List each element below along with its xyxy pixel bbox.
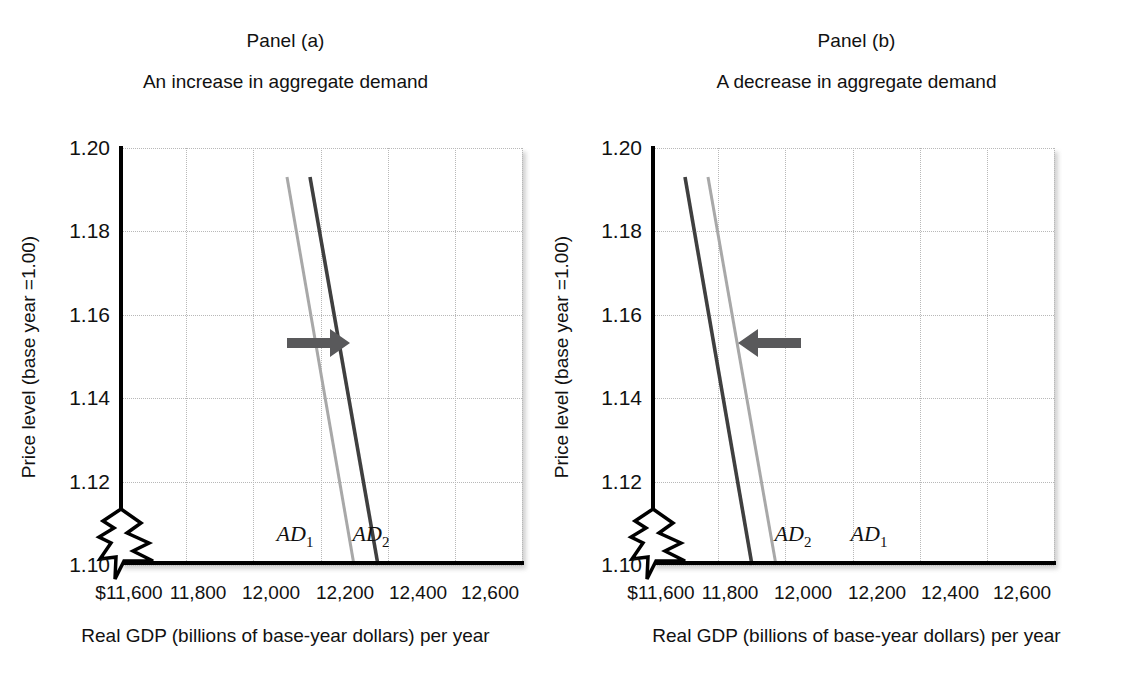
panel-a-curves — [119, 148, 522, 565]
panel-b-title: Panel (b) — [571, 30, 1142, 52]
panel-a-x-axis-label: Real GDP (billions of base-year dollars)… — [0, 625, 571, 647]
panel-b-curves — [651, 148, 1054, 565]
panel-b-y-axis-label-text: Price level (base year =1.00) — [551, 235, 573, 477]
panel-b-plot-area: AD2 AD1 1.20 1.18 1.16 1.14 1.12 1.10 $1… — [651, 148, 1054, 565]
x-tick-label: 12,000 — [774, 582, 832, 604]
y-tick-label: 1.12 — [601, 469, 642, 493]
gridline-v — [1054, 148, 1055, 565]
x-tick-label: 12,200 — [848, 582, 906, 604]
x-tick-label: 12,200 — [316, 582, 374, 604]
panel-b-y-axis-label: Price level (base year =1.00) — [549, 148, 575, 565]
x-tick-label: 12,600 — [993, 582, 1051, 604]
y-tick-label: 1.14 — [601, 386, 642, 410]
y-tick-label: 1.18 — [69, 219, 110, 243]
curve-label-ad2: AD2 — [353, 521, 390, 550]
x-tick-label: 12,400 — [389, 582, 447, 604]
panel-a-x-axis — [119, 561, 524, 565]
panel-b-subtitle: A decrease in aggregate demand — [571, 70, 1142, 93]
gridline-v — [522, 148, 523, 565]
panel-a-plot: AD1 AD2 1.20 1.18 1.16 1.14 1.12 1.10 $1… — [119, 148, 522, 565]
y-tick-label: 1.10 — [69, 553, 110, 577]
curve-label-ad1: AD1 — [851, 521, 888, 550]
y-tick-label: 1.18 — [601, 219, 642, 243]
gridline-h — [119, 565, 522, 566]
panel-b-x-axis — [651, 561, 1056, 565]
y-tick-label: 1.10 — [601, 553, 642, 577]
gridline-h — [651, 565, 1054, 566]
y-tick-label: 1.20 — [69, 136, 110, 160]
x-tick-label: 12,600 — [461, 582, 519, 604]
x-tick-label: 12,000 — [242, 582, 300, 604]
y-tick-label: 1.20 — [601, 136, 642, 160]
x-tick-label: 12,400 — [921, 582, 979, 604]
x-tick-label: 11,800 — [170, 582, 227, 604]
curve-label-ad2: AD2 — [775, 521, 812, 550]
left-arrow-icon — [738, 329, 801, 357]
panel-a-subtitle: An increase in aggregate demand — [0, 70, 571, 93]
y-tick-label: 1.16 — [601, 302, 642, 326]
x-tick-label: $11,600 — [627, 582, 694, 604]
y-tick-label: 1.12 — [69, 469, 110, 493]
panel-a-y-axis-label-text: Price level (base year =1.00) — [18, 235, 40, 477]
panel-a-y-axis-label: Price level (base year =1.00) — [16, 148, 42, 565]
panel-b-plot: AD2 AD1 1.20 1.18 1.16 1.14 1.12 1.10 $1… — [651, 148, 1054, 565]
x-tick-label: $11,600 — [95, 582, 162, 604]
panel-b: Panel (b) A decrease in aggregate demand… — [571, 0, 1142, 682]
y-tick-label: 1.14 — [69, 386, 110, 410]
aggregate-demand-figure: Panel (a) An increase in aggregate deman… — [0, 0, 1142, 682]
panel-a-title: Panel (a) — [0, 30, 571, 52]
x-tick-label: 11,800 — [702, 582, 759, 604]
panel-b-x-axis-label: Real GDP (billions of base-year dollars)… — [571, 625, 1142, 647]
panel-a: Panel (a) An increase in aggregate deman… — [0, 0, 571, 682]
curve-label-ad1: AD1 — [277, 521, 314, 550]
y-tick-label: 1.16 — [69, 302, 110, 326]
panel-a-plot-area: AD1 AD2 1.20 1.18 1.16 1.14 1.12 1.10 $1… — [119, 148, 522, 565]
